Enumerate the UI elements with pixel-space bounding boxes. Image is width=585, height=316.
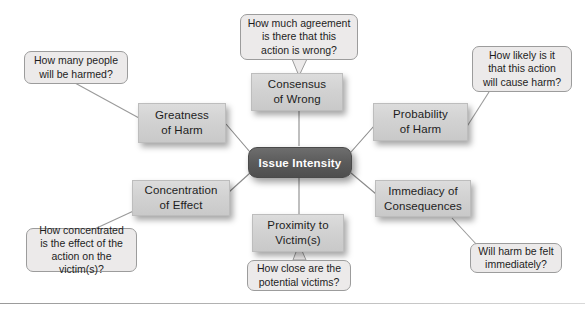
callout-proximity-to-victims-text: How close are thepotential victims?	[252, 262, 346, 288]
callout-greatness-of-harm-text: How many peoplewill be harmed?	[29, 54, 123, 80]
node-greatness-of-harm-label: Greatnessof Harm	[151, 108, 213, 137]
callout-probability-of-harm: How likely is itthat this actionwill cau…	[472, 46, 572, 92]
node-greatness-of-harm[interactable]: Greatnessof Harm	[138, 103, 226, 143]
callout-consensus-of-wrong: How much agreementis there that thisacti…	[240, 14, 358, 60]
node-consensus-of-wrong[interactable]: Consensusof Wrong	[251, 73, 343, 111]
node-probability-of-harm[interactable]: Probabilityof Harm	[373, 103, 468, 141]
callout-concentration-of-effect: How concentratedis the effect of theacti…	[26, 228, 137, 272]
node-immediacy-of-consequences[interactable]: Immediacy ofConsequences	[375, 180, 471, 217]
callout-immediacy-of-consequences-text: Will harm be feltimmediately?	[473, 245, 558, 271]
node-immediacy-of-consequences-label: Immediacy ofConsequences	[380, 184, 466, 213]
node-proximity-to-victims[interactable]: Proximity toVictim(s)	[252, 214, 344, 252]
callout-consensus-of-wrong-text: How much agreementis there that thisacti…	[243, 17, 356, 57]
center-node-label: Issue Intensity	[259, 157, 342, 169]
callout-probability-of-harm-text: How likely is itthat this actionwill cau…	[478, 49, 566, 89]
callout-concentration-of-effect-text: How concentratedis the effect of theacti…	[27, 224, 136, 277]
callout-immediacy-of-consequences: Will harm be feltimmediately?	[470, 243, 562, 273]
node-concentration-of-effect[interactable]: Concentrationof Effect	[132, 180, 230, 216]
center-node-issue-intensity[interactable]: Issue Intensity	[248, 147, 352, 178]
callout-greatness-of-harm: How many peoplewill be harmed?	[24, 51, 128, 84]
node-probability-of-harm-label: Probabilityof Harm	[389, 107, 452, 136]
diagram-canvas: Issue Intensity Greatnessof Harm Consens…	[0, 0, 585, 316]
node-concentration-of-effect-label: Concentrationof Effect	[141, 183, 222, 212]
node-consensus-of-wrong-label: Consensusof Wrong	[264, 77, 330, 106]
callout-proximity-to-victims: How close are thepotential victims?	[247, 260, 351, 291]
bottom-divider	[0, 303, 585, 304]
node-proximity-to-victims-label: Proximity toVictim(s)	[263, 218, 332, 247]
